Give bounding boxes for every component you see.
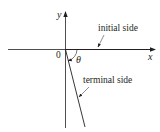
terminal-side-pointer: [79, 87, 89, 97]
x-axis-label: x: [147, 51, 153, 62]
initial-side-pointer: [98, 35, 104, 47]
y-axis-label: y: [56, 9, 62, 20]
angle-diagram: y x 0 θ initial side terminal side: [0, 0, 160, 132]
initial-side-label: initial side: [98, 23, 138, 33]
theta-label: θ: [76, 54, 81, 65]
origin-label: 0: [56, 50, 61, 60]
terminal-side-label: terminal side: [83, 75, 132, 85]
